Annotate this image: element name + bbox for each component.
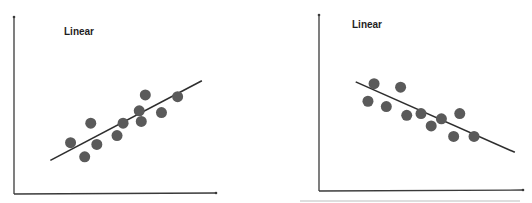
chart-title: Linear [64, 26, 94, 37]
data-point-4 [395, 82, 406, 93]
data-point-7 [426, 120, 437, 131]
y-axis-arrow [318, 14, 321, 17]
x-axis-arrow [522, 189, 525, 192]
data-point-1 [65, 137, 76, 148]
x-axis-arrow [215, 192, 218, 195]
chart-title: Linear [352, 19, 382, 30]
data-point-6 [118, 118, 129, 129]
data-point-6 [416, 108, 427, 119]
data-point-9 [140, 89, 151, 100]
marks [50, 81, 202, 163]
data-point-2 [79, 151, 90, 162]
data-point-1 [369, 78, 380, 89]
data-point-2 [362, 96, 373, 107]
data-point-11 [172, 91, 183, 102]
marks [356, 78, 515, 152]
chart-linear-negative: Linear [318, 14, 525, 192]
data-point-8 [436, 113, 447, 124]
data-point-11 [469, 131, 480, 142]
data-point-4 [91, 139, 102, 150]
figure: Linear Linear [0, 0, 532, 203]
data-point-3 [85, 118, 96, 129]
data-point-10 [156, 107, 167, 118]
data-point-5 [112, 130, 123, 141]
x-axis [14, 193, 216, 194]
chart-linear-positive: Linear [13, 16, 218, 195]
data-point-7 [134, 105, 145, 116]
data-point-5 [401, 110, 412, 121]
x-axis [319, 190, 523, 191]
data-point-8 [136, 116, 147, 127]
regression-line [356, 82, 515, 152]
data-point-3 [381, 101, 392, 112]
y-axis-arrow [13, 16, 16, 19]
data-point-9 [454, 108, 465, 119]
data-point-10 [448, 131, 459, 142]
